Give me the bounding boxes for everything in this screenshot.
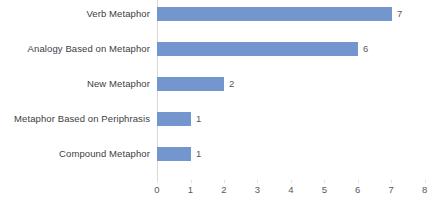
bar[interactable] — [157, 42, 358, 56]
x-tick-mark — [425, 180, 426, 183]
chart-row: Analogy Based on Metaphor 6 — [0, 42, 434, 78]
bar-value-label: 1 — [196, 112, 201, 126]
bar[interactable] — [157, 147, 191, 161]
bar-wrapper — [157, 147, 191, 161]
bar[interactable] — [157, 7, 392, 21]
x-tick-mark — [257, 180, 258, 183]
bar-value-label: 2 — [229, 77, 234, 91]
bar-wrapper — [157, 112, 191, 126]
bar[interactable] — [157, 112, 191, 126]
x-tick-label: 1 — [181, 184, 201, 196]
x-tick-label: 3 — [247, 184, 267, 196]
x-tick-mark — [358, 180, 359, 183]
bar-value-label: 1 — [196, 147, 201, 161]
bar-wrapper — [157, 42, 358, 56]
category-label: New Metaphor — [0, 77, 150, 91]
x-tick-label: 0 — [147, 184, 167, 196]
x-tick-label: 6 — [348, 184, 368, 196]
chart-row: Metaphor Based on Periphrasis 1 — [0, 112, 434, 148]
category-label: Metaphor Based on Periphrasis — [0, 112, 150, 126]
x-tick-mark — [191, 180, 192, 183]
bar-value-label: 7 — [397, 7, 402, 21]
x-tick-label: 8 — [415, 184, 434, 196]
bar-value-label: 6 — [363, 42, 368, 56]
bar-wrapper — [157, 7, 392, 21]
x-tick-mark — [324, 180, 325, 183]
chart-row: Compound Metaphor 1 — [0, 147, 434, 183]
bar-chart: Verb Metaphor 7 Analogy Based on Metapho… — [0, 0, 434, 211]
chart-row: Verb Metaphor 7 — [0, 7, 434, 43]
bar[interactable] — [157, 77, 224, 91]
category-label: Verb Metaphor — [0, 7, 150, 21]
x-tick-mark — [291, 180, 292, 183]
x-tick-mark — [157, 180, 158, 183]
x-tick-mark — [224, 180, 225, 183]
category-label: Compound Metaphor — [0, 147, 150, 161]
category-label: Analogy Based on Metaphor — [0, 42, 150, 56]
x-tick-mark — [391, 180, 392, 183]
chart-row: New Metaphor 2 — [0, 77, 434, 113]
x-tick-label: 5 — [314, 184, 334, 196]
x-tick-label: 4 — [281, 184, 301, 196]
x-tick-label: 7 — [381, 184, 401, 196]
bar-wrapper — [157, 77, 224, 91]
x-tick-label: 2 — [214, 184, 234, 196]
